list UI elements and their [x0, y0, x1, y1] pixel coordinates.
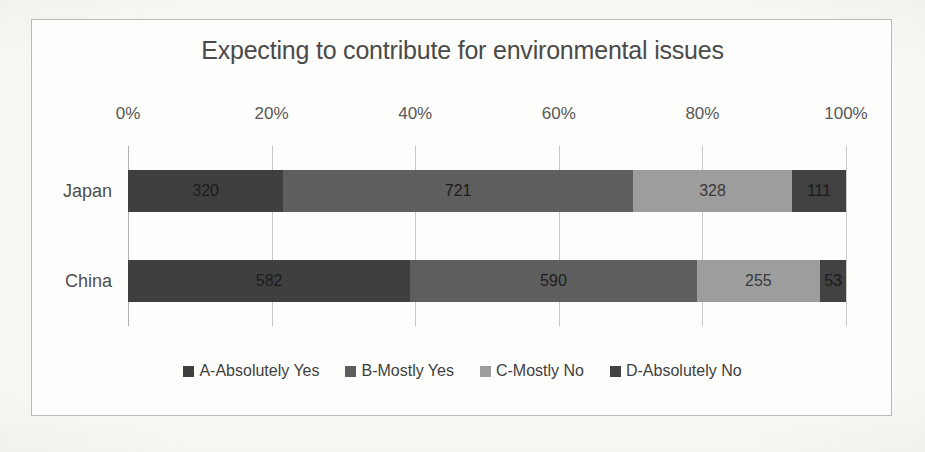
- bar-segment-value-label: 53: [824, 273, 842, 289]
- legend-swatch-icon: [480, 366, 491, 377]
- x-tick-label: 60%: [542, 104, 576, 124]
- gridline: [846, 146, 847, 326]
- bar-segment[interactable]: 53: [820, 260, 846, 302]
- legend-item[interactable]: A-Absolutely Yes: [183, 362, 319, 380]
- legend-item[interactable]: D-Absolutely No: [610, 362, 742, 380]
- category-axis-labels: JapanChina: [0, 146, 120, 326]
- bar-segment-value-label: 582: [256, 273, 283, 289]
- legend-item[interactable]: C-Mostly No: [480, 362, 584, 380]
- plot-area: 32072132811158259025553: [128, 146, 846, 326]
- chart-title: Expecting to contribute for environmenta…: [0, 36, 925, 65]
- bar-segment-value-label: 111: [807, 183, 831, 199]
- legend-swatch-icon: [610, 366, 621, 377]
- bar-row[interactable]: 58259025553: [128, 260, 846, 302]
- x-axis-tick-labels: 0%20%40%60%80%100%: [0, 104, 925, 126]
- bar-segment-value-label: 328: [699, 183, 726, 199]
- bar-segment-value-label: 255: [745, 273, 772, 289]
- bar-segment-value-label: 320: [192, 183, 219, 199]
- legend-label: A-Absolutely Yes: [199, 362, 319, 380]
- chart-page: Expecting to contribute for environmenta…: [0, 0, 925, 452]
- chart-legend: A-Absolutely YesB-Mostly YesC-Mostly NoD…: [0, 362, 925, 380]
- x-tick-label: 80%: [685, 104, 719, 124]
- legend-label: C-Mostly No: [496, 362, 584, 380]
- bar-row[interactable]: 320721328111: [128, 170, 846, 212]
- bar-segment[interactable]: 111: [792, 170, 846, 212]
- x-tick-label: 40%: [398, 104, 432, 124]
- bar-segment[interactable]: 721: [283, 170, 633, 212]
- bar-segment[interactable]: 582: [128, 260, 410, 302]
- legend-swatch-icon: [183, 366, 194, 377]
- legend-label: D-Absolutely No: [626, 362, 742, 380]
- bar-segment[interactable]: 255: [697, 260, 821, 302]
- bar-segment[interactable]: 320: [128, 170, 283, 212]
- category-label: China: [65, 271, 112, 292]
- legend-swatch-icon: [345, 366, 356, 377]
- bar-segment[interactable]: 328: [633, 170, 792, 212]
- bar-segment-value-label: 721: [445, 183, 472, 199]
- legend-label: B-Mostly Yes: [361, 362, 453, 380]
- x-tick-label: 0%: [116, 104, 141, 124]
- legend-item[interactable]: B-Mostly Yes: [345, 362, 453, 380]
- x-tick-label: 100%: [824, 104, 867, 124]
- category-label: Japan: [63, 181, 112, 202]
- bar-segment[interactable]: 590: [410, 260, 696, 302]
- x-tick-label: 20%: [255, 104, 289, 124]
- bar-segment-value-label: 590: [540, 273, 567, 289]
